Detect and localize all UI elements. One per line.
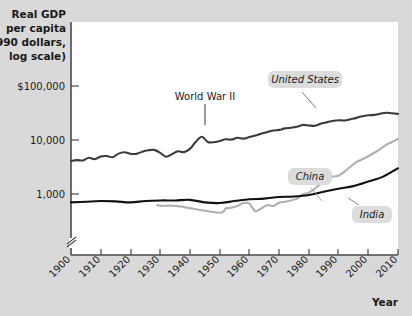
series-label-united-states: United States <box>271 74 339 85</box>
annotation-world-war-two-label: World War II <box>175 91 235 102</box>
chart-svg: Real GDP per capita (1990 dollars, log s… <box>0 0 412 316</box>
y-axis-title-line-3: (1990 dollars, <box>0 36 66 48</box>
y-tick-label-100000: $100,000 <box>17 81 65 92</box>
x-axis-title: Year <box>371 296 399 308</box>
series-label-india: India <box>360 209 385 220</box>
y-tick-label-1000: 1,000 <box>36 189 65 200</box>
y-axis-title-line-2: per capita <box>6 22 66 34</box>
y-axis-break-icon <box>64 237 76 248</box>
y-axis-title-line-4: log scale) <box>9 50 66 62</box>
y-axis-title-line-1: Real GDP <box>11 8 66 20</box>
y-tick-label-10000: 10,000 <box>30 135 65 146</box>
series-label-china: China <box>296 171 325 182</box>
chart-figure: Real GDP per capita (1990 dollars, log s… <box>0 0 412 316</box>
